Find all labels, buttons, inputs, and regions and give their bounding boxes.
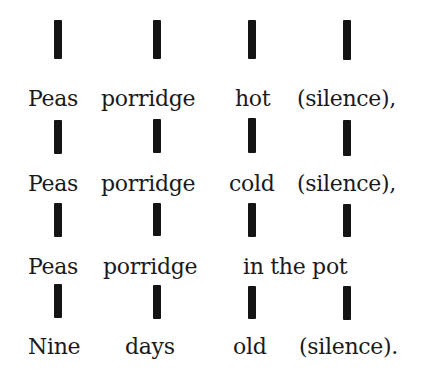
lyric-word: porridge (103, 256, 197, 278)
beat-marker (248, 118, 256, 153)
lyric-word: Peas (28, 173, 78, 195)
beat-marker (248, 286, 256, 319)
lyric-word: in the pot (243, 256, 347, 278)
beat-marker (248, 203, 256, 237)
beat-marker (343, 20, 351, 60)
beat-marker (153, 119, 161, 153)
lyric-word: porridge (101, 173, 195, 195)
lyric-word: cold (229, 173, 275, 195)
beat-marker (343, 120, 351, 156)
lyric-word: (silence), (297, 88, 396, 110)
lyric-word: porridge (101, 88, 195, 110)
lyric-word: days (125, 336, 175, 358)
beat-marker (54, 20, 62, 59)
beat-marker (153, 203, 161, 236)
lyric-word: old (233, 336, 266, 358)
beat-marker (248, 20, 256, 59)
lyric-word: Nine (28, 336, 80, 358)
lyric-word: Peas (28, 256, 78, 278)
beat-marker (153, 285, 161, 319)
lyric-word: (silence), (297, 173, 396, 195)
beat-marker (54, 120, 62, 154)
lyric-word: hot (235, 88, 270, 110)
lyric-word: Peas (28, 88, 78, 110)
beat-marker (54, 203, 62, 237)
beat-marker (343, 286, 351, 320)
lyric-word: (silence). (299, 336, 398, 358)
beat-marker (343, 204, 351, 237)
beat-marker (153, 20, 161, 59)
beat-marker (54, 284, 62, 318)
